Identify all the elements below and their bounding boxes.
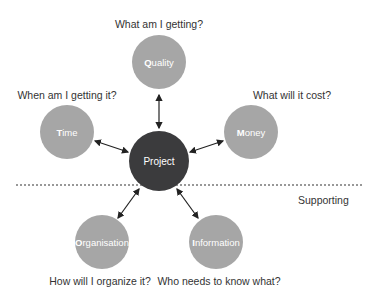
supporting-label: Supporting — [298, 194, 349, 206]
question-quality: What am I getting? — [115, 18, 203, 30]
arrow-information — [177, 189, 198, 218]
node-information: Information — [189, 215, 243, 269]
arrow-organisation — [118, 189, 139, 218]
svg-text:Organisation: Organisation — [75, 237, 129, 248]
arrow-time — [95, 141, 128, 152]
node-project: Project — [129, 131, 189, 191]
svg-text:Time: Time — [56, 127, 77, 138]
svg-text:Project: Project — [143, 156, 174, 167]
svg-text:Money: Money — [237, 127, 266, 138]
arrow-money — [190, 141, 223, 152]
node-organisation: Organisation — [75, 215, 129, 269]
project-diagram: Supporting Quality What am I getting? Ti… — [0, 0, 380, 297]
question-organisation: How will I organize it? — [49, 275, 151, 287]
node-quality: Quality — [132, 35, 186, 89]
node-money: Money — [224, 105, 278, 159]
svg-text:Information: Information — [192, 237, 240, 248]
question-money: What will it cost? — [253, 89, 331, 101]
question-time: When am I getting it? — [17, 89, 116, 101]
svg-text:Quality: Quality — [144, 57, 174, 68]
question-information: Who needs to know what? — [157, 275, 280, 287]
node-time: Time — [40, 105, 94, 159]
